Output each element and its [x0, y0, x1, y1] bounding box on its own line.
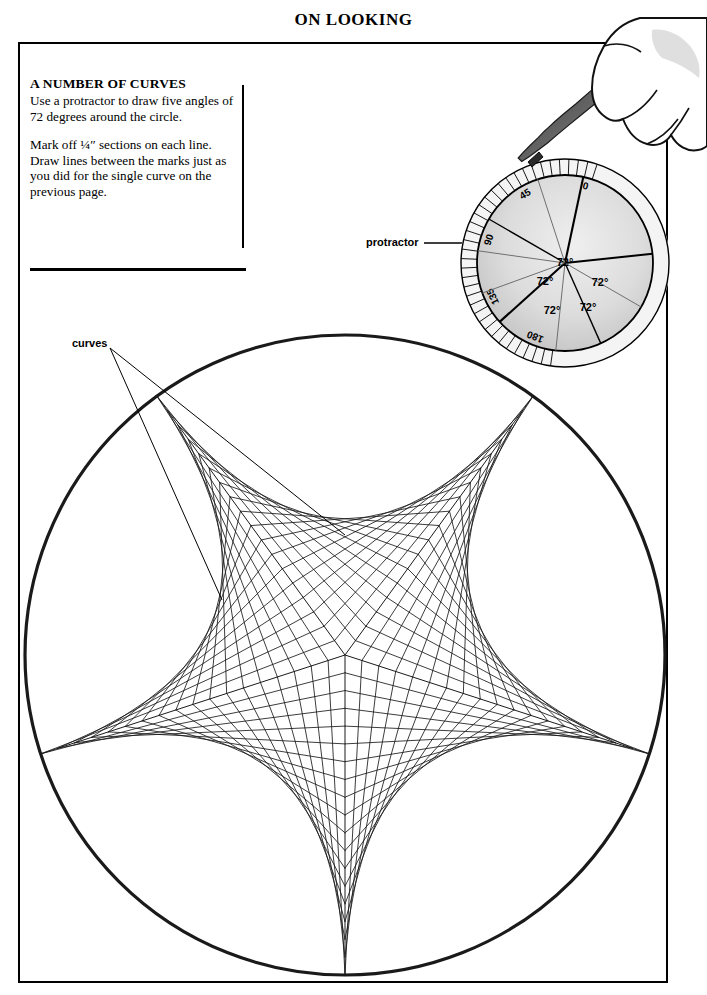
instruction-vertical-rule — [242, 85, 244, 248]
instruction-paragraph-2: Mark off ¼″ sections on each line. Draw … — [30, 137, 238, 199]
paragraph-spacer — [30, 124, 238, 137]
instruction-heading: A NUMBER OF CURVES — [30, 76, 238, 92]
instruction-bottom-rule — [30, 268, 246, 271]
annotation-label-protractor: protractor — [366, 236, 419, 248]
instruction-paragraph-1: Use a protractor to draw five angles of … — [30, 93, 238, 124]
annotation-label-curves: curves — [72, 337, 107, 349]
page-title: ON LOOKING — [0, 10, 707, 30]
page-root: ON LOOKING 0459013518072°72°72°72°72° A … — [0, 0, 707, 995]
finger-line-2 — [671, 108, 689, 135]
instruction-box: A NUMBER OF CURVES Use a protractor to d… — [30, 76, 238, 200]
